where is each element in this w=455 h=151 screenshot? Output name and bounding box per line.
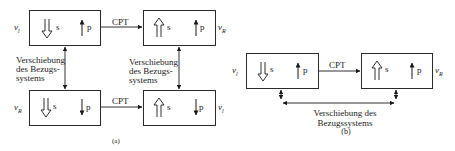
hollow-down-arrow-icon xyxy=(41,98,51,117)
hollow-down-arrow-icon xyxy=(42,19,52,38)
diagram-arrows xyxy=(0,0,455,151)
hollow-up-arrow-icon xyxy=(372,61,382,80)
hollow-down-arrow-icon xyxy=(258,62,268,81)
hollow-up-arrow-icon xyxy=(154,98,164,117)
hollow-up-arrow-icon xyxy=(154,18,164,37)
